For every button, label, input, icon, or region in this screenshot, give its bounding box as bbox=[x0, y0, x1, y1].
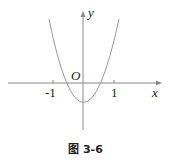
parabola-curve bbox=[49, 19, 119, 103]
tick-label-pos1: 1 bbox=[111, 86, 118, 99]
origin-label: O bbox=[71, 69, 80, 82]
y-axis-arrow-icon bbox=[81, 11, 86, 17]
x-axis-label: x bbox=[152, 86, 158, 99]
tick-label-neg1: -1 bbox=[45, 86, 56, 99]
figure-caption: 图 3-6 bbox=[0, 140, 171, 156]
y-axis-label: y bbox=[88, 6, 94, 19]
